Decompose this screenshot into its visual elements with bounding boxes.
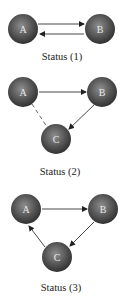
caption-status-1: Status (1) — [42, 51, 83, 63]
node-b: B — [87, 77, 117, 107]
caption-status-2: Status (2) — [40, 166, 81, 178]
node-b: B — [85, 14, 115, 44]
edge-b-to-c — [70, 222, 94, 246]
edge-a-c-dashed — [32, 104, 47, 127]
svg-text:B: B — [97, 24, 104, 35]
svg-text:A: A — [19, 87, 27, 98]
node-c: C — [41, 124, 71, 154]
svg-text:A: A — [19, 24, 27, 35]
svg-text:B: B — [99, 87, 106, 98]
status-diagrams: A B Status (1) A B C Status (2) — [0, 0, 127, 302]
svg-text:B: B — [100, 204, 107, 215]
caption-status-3: Status (3) — [41, 282, 82, 294]
node-a: A — [8, 77, 38, 107]
node-c: C — [42, 242, 72, 272]
diagram-status-2: A B C Status (2) — [8, 77, 117, 178]
svg-text:C: C — [54, 252, 61, 263]
node-a: A — [8, 14, 38, 44]
svg-text:C: C — [53, 134, 60, 145]
node-a: A — [11, 194, 41, 224]
node-b: B — [88, 194, 118, 224]
svg-text:A: A — [22, 204, 30, 215]
edge-c-to-a — [29, 226, 45, 247]
diagram-status-3: A B C Status (3) — [11, 194, 118, 294]
diagram-status-1: A B Status (1) — [8, 14, 115, 63]
edge-b-to-c — [69, 105, 94, 129]
